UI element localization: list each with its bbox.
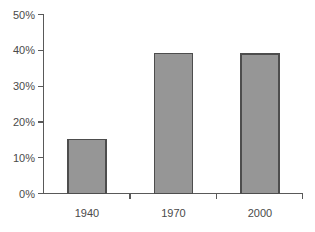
bar-1970	[155, 54, 193, 194]
y-tick-label-20: 20%	[13, 116, 35, 128]
y-tick-label-0: 0%	[19, 188, 35, 200]
chart-canvas: 0% 10% 20% 30% 40% 50% 1940 1970 2000	[0, 0, 315, 232]
x-tick-label-1940: 1940	[75, 207, 99, 219]
y-tick-label-50: 50%	[13, 9, 35, 21]
x-tick-label-2000: 2000	[248, 207, 272, 219]
y-tick-label-30: 30%	[13, 80, 35, 92]
bar-chart: 0% 10% 20% 30% 40% 50% 1940 1970 2000	[0, 0, 315, 232]
y-tick-label-10: 10%	[13, 152, 35, 164]
bar-1940	[68, 140, 106, 194]
x-tick-label-1970: 1970	[161, 207, 185, 219]
bar-2000	[241, 54, 279, 194]
y-tick-label-40: 40%	[13, 44, 35, 56]
